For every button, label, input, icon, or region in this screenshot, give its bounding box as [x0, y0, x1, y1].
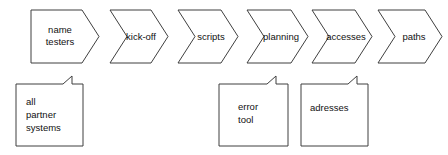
- process-step-label: scripts: [197, 31, 225, 42]
- note-all-partner-systems[interactable]: all partner systems: [16, 76, 83, 146]
- process-flow-diagram: name testers kick-off scripts planning a…: [0, 0, 448, 155]
- process-step-label-line-1: name: [48, 24, 72, 35]
- note-label-line-2: tool: [238, 114, 253, 125]
- process-step-planning[interactable]: planning: [247, 10, 308, 63]
- process-step-name-testers[interactable]: name testers: [31, 10, 99, 63]
- process-step-paths[interactable]: paths: [378, 10, 442, 63]
- note-error-tool[interactable]: error tool: [219, 76, 288, 146]
- process-step-label: accesses: [326, 31, 366, 42]
- process-step-label: paths: [402, 31, 425, 42]
- note-label-line-3: systems: [26, 122, 61, 133]
- process-step-scripts[interactable]: scripts: [178, 10, 238, 63]
- note-label-line-2: partner: [26, 109, 56, 120]
- process-step-kick-off[interactable]: kick-off: [110, 10, 168, 63]
- process-step-accesses[interactable]: accesses: [312, 10, 372, 63]
- process-step-label-line-2: testers: [46, 36, 75, 47]
- note-adresses[interactable]: adresses: [301, 76, 368, 146]
- process-step-label: kick-off: [126, 31, 156, 42]
- note-label-line-1: all: [26, 96, 36, 107]
- note-label-line-1: error: [238, 101, 258, 112]
- note-label-line-1: adresses: [310, 102, 349, 113]
- process-step-label: planning: [263, 31, 299, 42]
